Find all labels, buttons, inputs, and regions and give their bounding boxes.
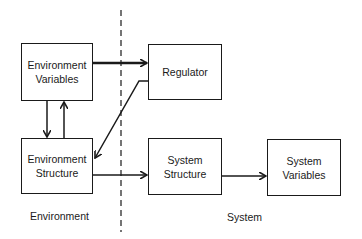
- region-label-system: System: [227, 211, 262, 223]
- node-label-line1: Environment: [28, 152, 87, 166]
- node-label-line2: Variables: [28, 72, 87, 86]
- diagram-connections: [0, 0, 362, 239]
- node-label-line1: Environment: [28, 58, 87, 72]
- node-label-line2: Variables: [283, 168, 326, 182]
- node-environment-variables: Environment Variables: [21, 43, 93, 101]
- node-system-structure: System Structure: [148, 138, 222, 195]
- region-label-environment: Environment: [30, 210, 89, 222]
- node-label-line1: Regulator: [162, 65, 208, 79]
- node-regulator: Regulator: [148, 44, 222, 100]
- node-label-line1: System: [164, 153, 207, 167]
- node-system-variables: System Variables: [267, 139, 341, 196]
- node-environment-structure: Environment Structure: [21, 138, 93, 194]
- node-label-line1: System: [283, 154, 326, 168]
- node-label-line2: Structure: [164, 167, 207, 181]
- node-label-line2: Structure: [28, 166, 87, 180]
